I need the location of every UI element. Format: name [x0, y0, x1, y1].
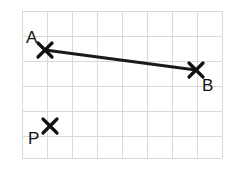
segment-layer [45, 50, 196, 70]
line-segment-ab [45, 50, 196, 70]
point-label-a: A [26, 28, 38, 47]
geometry-figure: ABP [0, 0, 240, 169]
diagram-canvas: ABP [0, 0, 240, 169]
point-label-p: P [28, 129, 39, 148]
point-marker-p [43, 119, 57, 133]
grid [22, 11, 223, 159]
point-label-b: B [202, 76, 213, 95]
point-marker-layer [38, 43, 203, 133]
